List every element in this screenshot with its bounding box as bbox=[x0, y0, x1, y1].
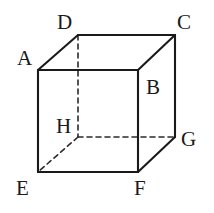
cube-figure: ABCDEFGH bbox=[0, 0, 214, 213]
visible-edge-group bbox=[38, 35, 175, 172]
vertex-label-c: C bbox=[177, 12, 191, 33]
vertex-label-a: A bbox=[17, 48, 32, 69]
vertex-label-f: F bbox=[134, 178, 146, 199]
edge-he bbox=[38, 137, 78, 172]
edge-fg bbox=[138, 137, 175, 172]
vertex-label-h: H bbox=[56, 116, 71, 137]
vertex-label-b: B bbox=[146, 77, 160, 98]
vertex-label-g: G bbox=[181, 129, 196, 150]
vertex-label-d: D bbox=[57, 12, 72, 33]
edge-ad bbox=[38, 35, 78, 70]
edge-bc bbox=[138, 35, 175, 70]
vertex-label-e: E bbox=[16, 178, 29, 199]
